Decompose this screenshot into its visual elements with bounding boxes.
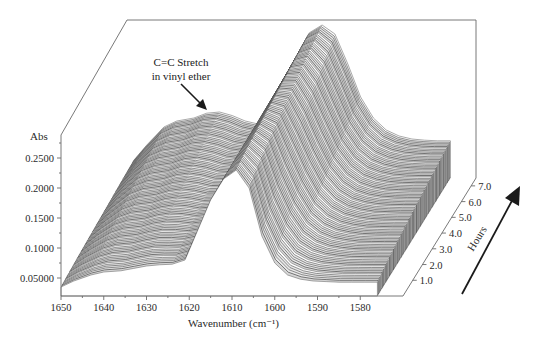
abs-tick-label: 0.2500 [25, 153, 54, 164]
hours-tick-label: 7.0 [478, 181, 491, 192]
wavenumber-axis-title: Wavenumber (cm⁻¹) [188, 317, 279, 330]
hours-tick-label: 1.0 [420, 275, 433, 286]
wavenumber-tick-label: 1610 [222, 302, 243, 313]
abs-axis: 0.050000.10000.15000.20000.2500 Abs [20, 130, 61, 296]
wavenumber-tick-label: 1630 [136, 302, 157, 313]
abs-tick-label: 0.1000 [25, 243, 54, 254]
annotation-line-1: C=C Stretch [154, 56, 209, 68]
abs-tick-label: 0.1500 [25, 213, 54, 224]
wavenumber-tick-label: 1650 [51, 302, 72, 313]
wavenumber-tick-label: 1640 [93, 302, 114, 313]
wavenumber-tick-label: 1600 [264, 302, 285, 313]
annotation-vinyl-ether: C=C Stretch in vinyl ether [152, 56, 211, 110]
surface-chart: 0.050000.10000.15000.20000.2500 Abs 1650… [0, 0, 540, 344]
wavenumber-tick-label: 1580 [350, 302, 371, 313]
annotation-line-2: in vinyl ether [152, 70, 211, 82]
spectral-surface [61, 25, 450, 296]
hours-tick-label: 4.0 [449, 228, 462, 239]
abs-tick-label: 0.05000 [20, 273, 54, 284]
annotation-arrow-icon [181, 84, 207, 110]
hours-tick-label: 5.0 [459, 212, 472, 223]
hours-tick-label: 6.0 [468, 197, 481, 208]
hours-tick-label: 2.0 [429, 260, 442, 271]
hours-tick-label: 3.0 [439, 244, 452, 255]
wavenumber-tick-label: 1620 [179, 302, 200, 313]
wavenumber-tick-label: 1590 [307, 302, 328, 313]
wavenumber-axis: 16501640163016201610160015901580 Wavenum… [51, 296, 404, 330]
abs-axis-title: Abs [30, 130, 48, 142]
box-left-depth-edge [61, 20, 127, 135]
abs-tick-label: 0.2000 [25, 183, 54, 194]
